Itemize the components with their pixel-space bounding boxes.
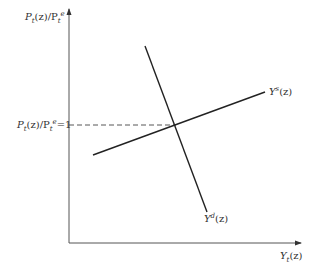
equilibrium-label: Pt(z)/Pte=1: [17, 120, 71, 130]
demand-curve-label: Yd(z): [204, 214, 228, 224]
x-label-tail: (z): [289, 250, 302, 261]
y-label-sub2: t: [58, 17, 61, 25]
y-axis-label: Pt(z)/Pte: [25, 12, 65, 22]
supply-label-tail: (z): [279, 86, 292, 97]
eq-label-sub2: t: [50, 125, 53, 133]
supply-curve-label: Ys(z): [269, 87, 292, 97]
y-label-mid: (z)/P: [35, 11, 58, 22]
demand-curve: [145, 46, 207, 212]
x-axis-label: Yt(z): [280, 251, 303, 261]
y-label-sup2: e: [61, 10, 65, 18]
demand-label-main: Y: [204, 213, 211, 224]
y-label-main: P: [25, 11, 32, 22]
supply-curve: [93, 92, 265, 155]
eq-label-mid: (z)/P: [27, 119, 50, 130]
x-label-main: Y: [280, 250, 287, 261]
demand-label-tail: (z): [215, 213, 228, 224]
supply-label-main: Y: [269, 86, 276, 97]
supply-demand-diagram: [0, 0, 320, 273]
eq-label-main: P: [17, 119, 24, 130]
eq-label-tail: =1: [57, 119, 72, 130]
